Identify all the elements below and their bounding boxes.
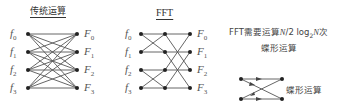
fft-output-label-3: F3 (197, 82, 207, 96)
traditional-output-label-3: F3 (84, 82, 94, 96)
note-line-2: 蝶形运算 (220, 42, 337, 54)
butterfly-label: 蝶形运算 (286, 84, 322, 96)
butterfly-arrows (249, 77, 262, 101)
fft-output-label-0: F0 (197, 28, 207, 42)
fft-complexity-note: FFT需要运算N/2 log2N次 蝶形运算 (220, 26, 337, 54)
traditional-output-label-0: F0 (84, 28, 94, 42)
traditional-input-label-2: f2 (10, 64, 17, 78)
traditional-input-label-3: f3 (10, 82, 17, 96)
fft-input-label-1: f1 (125, 46, 132, 60)
traditional-input-label-0: f0 (10, 28, 17, 42)
fft-input-label-3: f3 (125, 82, 132, 96)
fft-input-label-2: f2 (125, 64, 132, 78)
fft-title: FFT (156, 7, 173, 18)
fft-output-label-2: F2 (197, 64, 207, 78)
traditional-input-label-1: f1 (10, 46, 17, 60)
fft-output-label-1: F1 (197, 46, 207, 60)
traditional-output-label-2: F2 (84, 64, 94, 78)
traditional-title: 传统运算 (30, 7, 66, 16)
traditional-connections (28, 34, 77, 88)
fft-input-label-0: f0 (125, 28, 132, 42)
butterfly-connections (241, 79, 282, 99)
traditional-output-label-1: F1 (84, 46, 94, 60)
fft-connections (141, 34, 190, 88)
note-line-1: FFT需要运算N/2 log2N次 (220, 26, 337, 42)
